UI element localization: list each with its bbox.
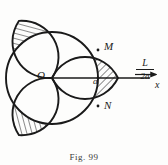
petal-upper-left-shading <box>1 10 70 88</box>
label-point-n: N <box>104 100 111 111</box>
fraction-bar <box>136 69 154 70</box>
label-distance-2a: 2a <box>136 71 154 81</box>
point-n-marker <box>97 105 100 108</box>
figure-container: O M N a L 2a x Fig. 99 <box>0 0 168 165</box>
rose-curve-diagram <box>0 0 168 165</box>
label-point-m: M <box>104 41 113 52</box>
label-radius-a: a <box>93 77 98 86</box>
petal-upper-left <box>1 10 70 88</box>
petal-lower-left-shading <box>1 68 70 146</box>
petal-lower-left <box>1 68 70 146</box>
label-axis-x: x <box>155 80 159 90</box>
label-line-distance: L 2a <box>136 58 154 81</box>
figure-caption: Fig. 99 <box>0 152 168 162</box>
point-m-marker <box>97 49 100 52</box>
label-origin: O <box>37 70 45 81</box>
label-line-name: L <box>136 58 154 68</box>
